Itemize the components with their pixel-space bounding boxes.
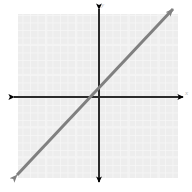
graph-figure: y x: [0, 0, 192, 192]
coordinate-plane-svg: y x: [0, 0, 192, 192]
